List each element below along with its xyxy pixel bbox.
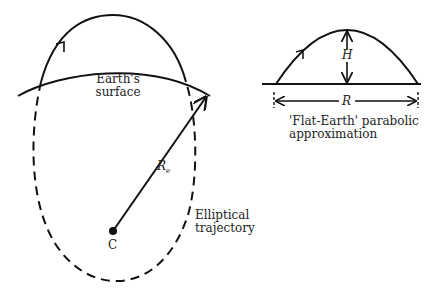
- center-label-text: C: [108, 238, 117, 252]
- center-point: [109, 227, 117, 235]
- trajectory-label: Elliptical trajectory: [195, 209, 255, 235]
- diagram-canvas: [0, 0, 435, 293]
- caption-line2: approximation: [289, 128, 419, 141]
- height-label: H: [342, 49, 352, 62]
- flat-earth-caption: 'Flat-Earth' parabolic approximation: [289, 115, 419, 141]
- radius-subscript: e: [166, 167, 170, 175]
- range-label: R: [342, 95, 351, 108]
- direction-arrow-icon: [56, 42, 64, 52]
- range-symbol: R: [342, 94, 351, 108]
- earth-surface-label: Earth's surface: [88, 73, 148, 99]
- earth-surface-label-line2: surface: [88, 86, 148, 99]
- radius-label: Re: [157, 160, 170, 178]
- radius-symbol: R: [157, 159, 166, 173]
- center-label: C: [108, 239, 117, 252]
- trajectory-label-line2: trajectory: [195, 222, 255, 235]
- height-symbol: H: [342, 48, 352, 62]
